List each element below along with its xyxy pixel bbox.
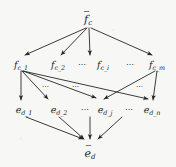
band-ellipsis-3: ⋯ bbox=[136, 83, 144, 91]
node-e-d-2-letter: e bbox=[51, 105, 57, 116]
node-f-c-i-subscript: c_i bbox=[101, 64, 110, 72]
node-f-c-1: fc_1 bbox=[14, 55, 28, 71]
node-e-d-1-letter: e bbox=[16, 105, 22, 116]
node-f-tilde-c-subscript: c bbox=[88, 19, 92, 27]
node-f-c-1-subscript: c_1 bbox=[17, 64, 28, 72]
f-row-ellipsis-left: ⋯ bbox=[78, 60, 87, 69]
node-e-d-n-letter: e bbox=[144, 105, 150, 116]
node-f-c-2-letter: f bbox=[51, 60, 55, 71]
tilde-accent-icon: ~ bbox=[83, 7, 90, 15]
node-e-d-j: ed_j bbox=[98, 100, 113, 116]
edge-e-d-1-to-leaf bbox=[26, 117, 83, 139]
node-f-c-i-letter: f bbox=[97, 60, 101, 71]
node-f-c-2: fc_2 bbox=[51, 55, 65, 71]
node-f-tilde-c: ~fc bbox=[84, 10, 92, 27]
node-e-d-j-letter: e bbox=[98, 105, 104, 116]
node-f-tilde-c-base: ~f bbox=[84, 14, 88, 25]
node-e-d-2-subscript: d_2 bbox=[56, 109, 67, 117]
band-ellipsis-2: ⋯ bbox=[72, 83, 80, 91]
node-f-c-m: fc_m bbox=[149, 55, 165, 71]
e-row-ellipsis-right: ⋯ bbox=[125, 105, 134, 114]
tilde-accent-icon: ~ bbox=[85, 141, 92, 149]
node-e-d-2: ed_2 bbox=[51, 100, 68, 116]
band-ellipsis-1: ⋯ bbox=[42, 83, 50, 91]
node-e-d-n-subscript: d_n bbox=[149, 109, 160, 117]
f-row-ellipsis-right: ⋯ bbox=[126, 60, 135, 69]
node-e-tilde-d-base: ~e bbox=[85, 148, 92, 159]
node-e-tilde-d-subscript: d bbox=[91, 153, 95, 161]
node-e-d-j-subscript: d_j bbox=[103, 109, 112, 117]
edge-e-d-n-to-leaf bbox=[98, 117, 122, 139]
node-f-c-1-letter: f bbox=[14, 60, 18, 71]
node-f-c-i: fc_i bbox=[97, 55, 109, 71]
node-f-c-m-subscript: c_m bbox=[152, 64, 165, 72]
figure-canvas: ~fc fc_1 fc_2 fc_i fc_m ⋯ ⋯ ⋯ ⋯ ⋯ ed_1 e… bbox=[0, 0, 176, 167]
edge-f-c-m-to-e-d-n bbox=[153, 71, 157, 100]
e-row-ellipsis-left: ⋯ bbox=[81, 105, 90, 114]
node-e-d-n: ed_n bbox=[144, 100, 161, 116]
edge-root-to-f-c-1 bbox=[25, 28, 86, 55]
node-e-tilde-d: ~ed bbox=[85, 144, 96, 161]
node-f-c-2-subscript: c_2 bbox=[54, 64, 65, 72]
edge-e-d-2-to-leaf bbox=[59, 117, 84, 139]
edge-root-to-f-c-i bbox=[89, 28, 90, 55]
node-f-c-m-letter: f bbox=[149, 60, 153, 71]
node-e-d-1-subscript: d_1 bbox=[21, 109, 32, 117]
edge-root-to-f-c-2 bbox=[61, 28, 87, 55]
node-e-d-1: ed_1 bbox=[16, 100, 33, 116]
edge-root-to-f-c-m bbox=[91, 28, 152, 55]
